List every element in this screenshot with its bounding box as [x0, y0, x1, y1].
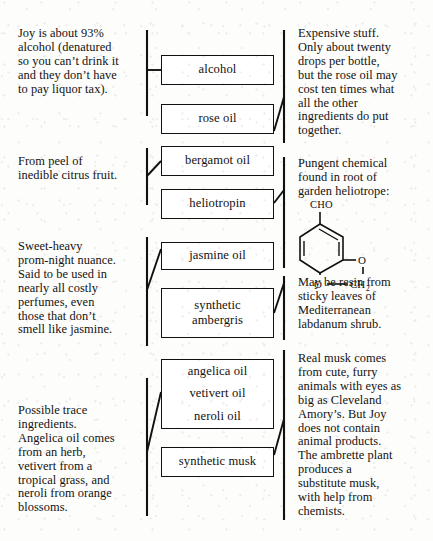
- annotation-musk: Real musk comes from cute, furry animals…: [298, 352, 430, 519]
- annotation-rose-oil: Expensive stuff. Only about twenty drops…: [298, 27, 430, 138]
- annotation-alcohol: Joy is about 93% alcohol (denatured so y…: [18, 27, 146, 97]
- ingredient-label: jasmine oil: [189, 248, 246, 264]
- ingredient-box-rose-oil[interactable]: rose oil: [161, 104, 274, 134]
- ingredient-label: synthetic musk: [179, 454, 256, 470]
- ingredient-label-line1: synthetic: [194, 298, 240, 314]
- ingredient-box-jasmine-oil[interactable]: jasmine oil: [161, 242, 274, 270]
- label-cho: CHO: [310, 199, 333, 210]
- annotation-trace: Possible trace ingredients. Angelica oil…: [18, 404, 146, 515]
- ingredient-label-vetivert-oil: vetivert oil: [189, 386, 245, 402]
- ingredient-box-alcohol[interactable]: alcohol: [161, 55, 274, 85]
- connector-ambergris: [274, 283, 284, 313]
- connector-rose: [274, 97, 284, 131]
- ingredient-box-synthetic-ambergris[interactable]: synthetic ambergris: [161, 288, 274, 338]
- connector-bergamot: [147, 161, 161, 176]
- annotation-heliotropin: Pungent chemical found in root of garden…: [298, 157, 430, 199]
- ingredient-label: rose oil: [198, 111, 236, 127]
- annotation-bergamot: From peel of inedible citrus fruit.: [18, 155, 146, 183]
- ingredient-label-angelica-oil: angelica oil: [188, 364, 248, 380]
- diagram-page: alcohol rose oil bergamot oil heliotropi…: [0, 0, 433, 541]
- ingredient-label: heliotropin: [189, 196, 245, 212]
- annotation-jasmine: Sweet-heavy prom-night nuance. Said to b…: [18, 240, 146, 337]
- connector-musk: [274, 419, 284, 455]
- connector-jasmine: [147, 249, 161, 290]
- connector-trace: [147, 392, 161, 452]
- ingredient-label: bergamot oil: [185, 153, 250, 169]
- ingredient-box-synthetic-musk[interactable]: synthetic musk: [161, 447, 274, 477]
- ingredient-box-bergamot-oil[interactable]: bergamot oil: [161, 146, 274, 176]
- annotation-ambergris: May be resin from sticky leaves of Medit…: [298, 276, 430, 332]
- ingredient-box-heliotropin[interactable]: heliotropin: [161, 189, 274, 219]
- ingredient-label-neroli-oil: neroli oil: [194, 409, 241, 425]
- connector-heliotropin: [274, 190, 284, 203]
- heliotropin-structure: CHO O O CH 2: [298, 198, 416, 280]
- ingredient-label: alcohol: [199, 62, 237, 78]
- label-oxygen-upper: O: [358, 254, 366, 266]
- ingredient-label-line2: ambergris: [192, 313, 243, 329]
- ingredient-box-trace-oils[interactable]: angelica oil vetivert oil neroli oil: [161, 359, 274, 429]
